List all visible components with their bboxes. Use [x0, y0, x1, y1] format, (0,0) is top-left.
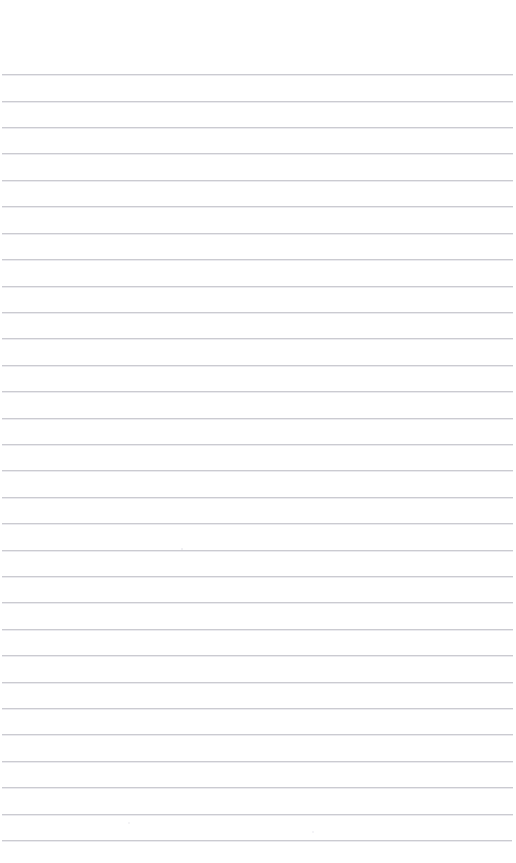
rule-line [2, 233, 513, 234]
rule-line [2, 180, 513, 181]
rule-line [2, 761, 513, 762]
rule-line [2, 391, 513, 392]
rule-line [2, 206, 513, 207]
page [0, 0, 516, 863]
rule-line [2, 74, 513, 75]
rule-line [2, 708, 513, 709]
rule-line [2, 153, 513, 154]
rule-line [2, 787, 513, 788]
rule-line [2, 312, 513, 313]
rule-line [2, 259, 513, 260]
rule-line [2, 840, 512, 841]
rule-line [2, 127, 513, 128]
rule-line [2, 629, 513, 630]
rule-line [2, 286, 513, 287]
rule-line [2, 470, 513, 471]
rule-line [2, 365, 513, 366]
rule-line [2, 734, 513, 735]
rule-line [2, 523, 513, 524]
rule-line [2, 602, 513, 603]
rule-line [2, 814, 513, 815]
rule-line [2, 655, 513, 656]
rule-line [2, 338, 513, 339]
rule-line [2, 418, 513, 419]
ruled-lines-layer [0, 0, 516, 863]
rule-line [2, 497, 513, 498]
rule-line [2, 550, 513, 551]
rule-line [2, 101, 513, 102]
rule-line [2, 682, 513, 683]
rule-line [2, 444, 513, 445]
rule-line [2, 576, 513, 577]
